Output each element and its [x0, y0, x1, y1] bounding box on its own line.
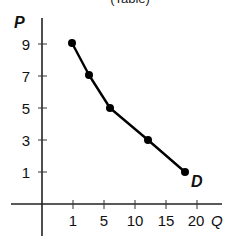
data-point — [68, 39, 76, 47]
data-point — [106, 104, 114, 112]
y-tick-label: 3 — [22, 132, 30, 149]
y-tick-label: 1 — [22, 164, 30, 181]
x-tick-label: 1 — [69, 212, 77, 229]
x-tick-label: 15 — [158, 212, 175, 229]
data-point — [85, 71, 93, 79]
x-tick-label: 5 — [100, 212, 108, 229]
data-points — [68, 39, 189, 176]
curve-label: D — [191, 173, 203, 190]
demand-curve — [72, 43, 185, 172]
data-point — [144, 136, 152, 144]
y-tick-label: 5 — [22, 100, 30, 117]
data-point — [181, 168, 189, 176]
y-axis-label: P — [14, 14, 25, 31]
x-tick-label: 10 — [127, 212, 144, 229]
x-axis-label: Q — [211, 212, 223, 229]
x-tick-label: 20 — [188, 212, 205, 229]
demand-chart: P Q 9 7 5 3 1 1 5 10 15 20 D — [0, 0, 236, 251]
y-tick-label: 9 — [22, 36, 30, 53]
y-tick-label: 7 — [22, 68, 30, 85]
